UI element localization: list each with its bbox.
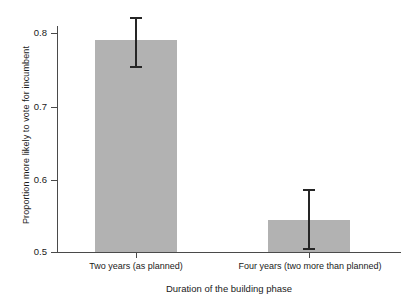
y-tick-label-0.8: 0.8 — [19, 28, 47, 38]
y-tick-label-group-1: 0.7 — [17, 102, 47, 112]
y-tick-label-0.7: 0.7 — [19, 102, 47, 112]
x-axis-line — [57, 252, 401, 253]
x-axis-title: Duration of the building phase — [57, 283, 401, 294]
x-tick-mark-two-years — [136, 253, 137, 258]
error-bar-cap-lower-four-years — [303, 248, 315, 250]
x-tick-label-two-years: Two years (as planned) — [61, 261, 211, 271]
y-tick-label-0.6: 0.6 — [19, 175, 47, 185]
error-bar-cap-upper-four-years — [303, 189, 315, 191]
y-axis-line — [57, 26, 58, 253]
y-tick-label-group-2: 0.6 — [17, 175, 47, 185]
y-tick-label-0.5: 0.5 — [19, 247, 47, 257]
y-tick-label-group-3: 0.5 — [17, 247, 47, 257]
y-tick-label-group-0: 0.8 — [17, 28, 47, 38]
error-bar-line-four-years — [308, 189, 310, 250]
y-axis-title: Proportion more likely to vote for incum… — [21, 15, 31, 255]
x-tick-mark-four-years — [309, 253, 310, 258]
x-tick-label-four-years: Four years (two more than planned) — [215, 261, 405, 271]
error-bar-cap-upper-two-years — [130, 17, 142, 19]
bar-two-years — [95, 40, 177, 252]
error-bar-line-two-years — [135, 17, 137, 68]
chart-canvas: Proportion more likely to vote for incum… — [0, 0, 407, 302]
error-bar-cap-lower-two-years — [130, 66, 142, 68]
